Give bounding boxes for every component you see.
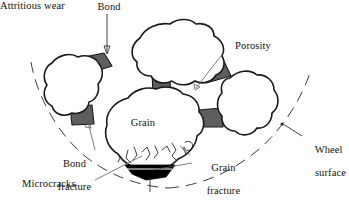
label-bond-fracture: Bond fracture — [42, 146, 96, 204]
grain-left — [44, 55, 102, 116]
label-microcracks: Microcracks — [22, 178, 94, 190]
label-wheel-surface-line2: surface — [315, 167, 346, 178]
leader-wheel-surface — [283, 124, 302, 136]
label-wheel-surface: Wheel surface — [304, 132, 349, 190]
grain-right — [218, 71, 278, 135]
label-porosity: Porosity — [225, 40, 281, 52]
label-bond: Bond — [85, 1, 133, 13]
label-bond-fracture-line1: Bond — [63, 158, 86, 169]
label-grain-fracture-line1: Grain — [211, 162, 235, 173]
label-grain-fracture-line2: fracture — [207, 185, 240, 196]
grain-top — [132, 20, 224, 85]
label-attritious-wear: Attritious wear — [0, 0, 65, 12]
leader-wheel-surface-dot — [281, 123, 284, 126]
label-grain: Grain — [121, 117, 165, 129]
label-wheel-surface-line1: Wheel — [315, 144, 343, 155]
grinding-wheel-diagram: Bond Porosity Wheel surface Grain Bond f… — [0, 0, 349, 219]
label-grain-fracture: Grain fracture — [192, 150, 244, 208]
